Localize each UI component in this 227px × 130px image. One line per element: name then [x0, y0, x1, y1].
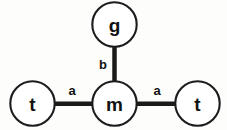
node-m[interactable]: m [92, 81, 136, 125]
node-t-left[interactable]: t [10, 81, 54, 125]
edge-label-a-right: a [153, 83, 161, 98]
diagram-svg: g m t t b a a [0, 0, 227, 130]
edge-label-a-left: a [68, 83, 76, 98]
graph-diagram: g m t t b a a [0, 0, 227, 130]
edge-label-b: b [99, 57, 107, 72]
node-t-left-label: t [29, 94, 36, 115]
node-g[interactable]: g [92, 2, 136, 46]
node-g-label: g [109, 15, 121, 36]
node-m-label: m [106, 94, 123, 115]
node-t-right-label: t [194, 94, 201, 115]
node-t-right[interactable]: t [175, 81, 219, 125]
